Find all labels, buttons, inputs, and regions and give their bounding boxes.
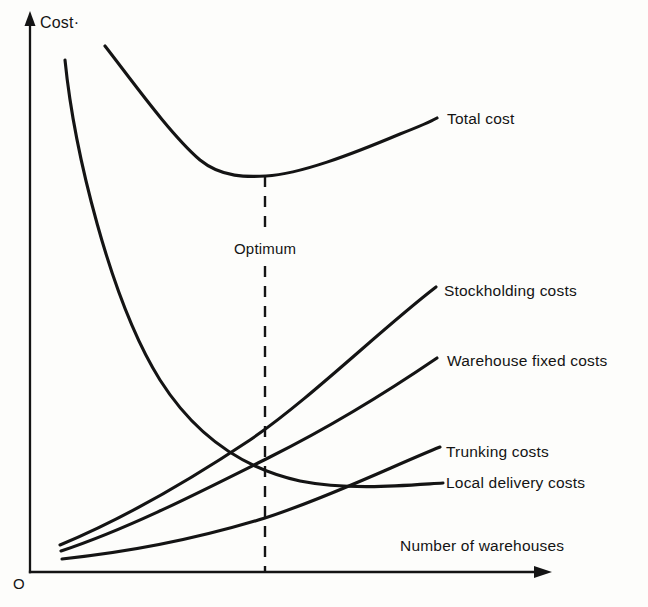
series-label-trunking-costs: Trunking costs bbox=[446, 443, 549, 461]
series-label-local-delivery-costs: Local delivery costs bbox=[446, 474, 585, 492]
x-axis-arrowhead bbox=[534, 566, 552, 578]
figure-canvas bbox=[0, 0, 648, 607]
x-axis-label: Number of warehouses bbox=[400, 537, 564, 555]
curve-local-delivery-costs bbox=[65, 60, 443, 487]
y-axis-arrowhead bbox=[25, 11, 36, 26]
optimum-label: Optimum bbox=[231, 240, 299, 257]
curve-stockholding-costs bbox=[60, 287, 436, 545]
series-label-warehouse-fixed-costs: Warehouse fixed costs bbox=[447, 352, 607, 370]
origin-label: O bbox=[13, 575, 25, 592]
cost-tradeoff-figure: Cost· Number of warehouses O Optimum Tot… bbox=[0, 0, 648, 607]
y-axis bbox=[25, 11, 36, 572]
series-label-stockholding-costs: Stockholding costs bbox=[444, 282, 577, 300]
x-axis bbox=[30, 566, 552, 578]
series-label-total-cost: Total cost bbox=[447, 110, 514, 128]
curve-total-cost bbox=[105, 46, 437, 176]
y-axis-label: Cost· bbox=[40, 14, 79, 32]
